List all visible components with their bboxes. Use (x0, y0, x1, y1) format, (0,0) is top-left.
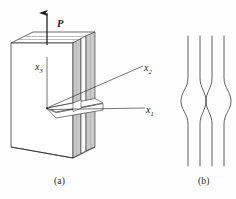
panel-a-block (11, 13, 145, 158)
necking-line-2 (200, 36, 206, 166)
necking-line-4 (224, 36, 231, 166)
axis-label-x1-sub: 1 (150, 110, 153, 117)
figure-container: P x3 x2 x1 (a) (b) (0, 0, 236, 199)
axis-label-x3-sub: 3 (39, 67, 42, 74)
axis-label-x1: x1 (146, 104, 154, 117)
axis-label-x2: x2 (144, 62, 152, 75)
panel-caption-b: (b) (198, 176, 210, 186)
load-label-P: P (57, 18, 63, 29)
panel-caption-a: (a) (54, 176, 65, 186)
axis-label-x2-sub: 2 (148, 68, 151, 75)
axis-label-x3: x3 (35, 61, 43, 74)
panel-b-necking-lines (181, 36, 231, 166)
necking-line-1 (181, 36, 188, 166)
figure-drawing (0, 0, 236, 199)
necking-line-3 (206, 36, 212, 166)
